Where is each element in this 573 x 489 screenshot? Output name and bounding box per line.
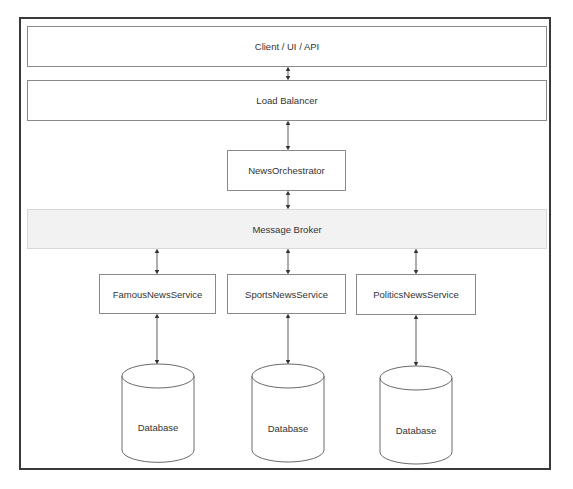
famous-service-label: FamousNewsService: [113, 289, 203, 300]
sports-database-label: Database: [252, 423, 324, 434]
famous-news-service-box: FamousNewsService: [99, 274, 216, 314]
politics-service-label: PoliticsNewsService: [373, 289, 459, 300]
message-broker-layer: Message Broker: [27, 209, 547, 249]
database-icon-sports: [252, 364, 324, 462]
database-icon-politics: [380, 366, 452, 464]
politics-news-service-box: PoliticsNewsService: [356, 274, 476, 315]
message-broker-label: Message Broker: [252, 224, 321, 235]
sports-service-label: SportsNewsService: [245, 289, 328, 300]
database-cylinders: [122, 364, 452, 464]
database-icon-famous: [122, 364, 194, 462]
news-orchestrator-box: NewsOrchestrator: [227, 150, 346, 191]
orchestrator-label: NewsOrchestrator: [248, 165, 325, 176]
client-ui-api-layer: Client / UI / API: [27, 26, 547, 67]
client-label: Client / UI / API: [255, 41, 319, 52]
politics-database-label: Database: [380, 425, 452, 436]
load-balancer-label: Load Balancer: [256, 95, 317, 106]
load-balancer-layer: Load Balancer: [27, 80, 547, 121]
famous-database-label: Database: [122, 422, 194, 433]
sports-news-service-box: SportsNewsService: [227, 274, 346, 314]
